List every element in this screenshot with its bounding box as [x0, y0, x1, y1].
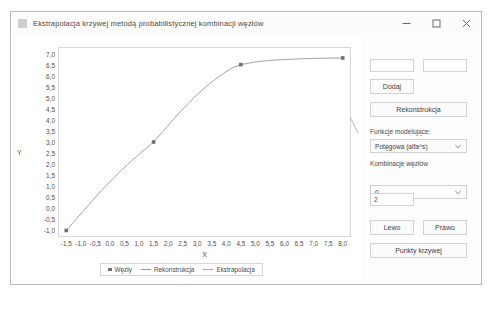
curve-points-button[interactable]: Punkty krzywej [370, 243, 467, 258]
x-axis-tick-label: 0,0 [105, 240, 114, 247]
y-axis-tick-label: 6,0 [46, 72, 55, 79]
left-button[interactable]: Lewo [370, 220, 414, 235]
x-axis-tick-label: 8,0 [338, 240, 347, 247]
legend-item-rekonstrukcja: Rekonstrukcja [141, 266, 195, 273]
x-axis-tick-label: 5,5 [266, 240, 275, 247]
series-wezly-markers [64, 56, 344, 232]
chart-panel: Y 7,06,56,05,55,04,54,03,53,02,52,01,51,… [12, 34, 364, 284]
y-axis-tick-label: 5,0 [46, 94, 55, 101]
y-axis-tick-label: 0,5 [46, 194, 55, 201]
right-button[interactable]: Prawo [423, 220, 467, 235]
y-axis-tick-label: 4,5 [46, 105, 55, 112]
y-axis-tick-label: 3,5 [46, 127, 55, 134]
x-axis-tick-label: 1,5 [149, 240, 158, 247]
count-input[interactable]: 2 [370, 193, 414, 206]
y-axis-tick-label: 3,0 [46, 139, 55, 146]
x-axis-tick-label: 0,5 [120, 240, 129, 247]
x-axis-tick-labels: -1,5-1,0-0,50,00,51,01,52,02,53,03,54,04… [58, 240, 351, 250]
node-marker [239, 63, 243, 67]
x-axis-tick-label: 7,5 [324, 240, 333, 247]
model-functions-value: Potęgowa (alfa^s) [375, 143, 428, 150]
y-axis-title: Y [17, 149, 22, 156]
legend-dashed-line-icon [203, 269, 213, 270]
maximize-button[interactable] [421, 12, 451, 34]
y-axis-tick-label: 5,5 [46, 83, 55, 90]
minimize-icon [401, 18, 412, 29]
reconstruct-button[interactable]: Rekonstrukcja [370, 102, 467, 117]
x-axis-tick-label: 4,0 [222, 240, 231, 247]
chart-legend: Węzły Rekonstrukcja Ekstrapolacja [100, 263, 263, 276]
control-panel: Dodaj Rekonstrukcja Funkcje modelujące: … [362, 34, 480, 284]
y-axis-tick-label: 2,0 [46, 161, 55, 168]
legend-label: Ekstrapolacja [216, 266, 254, 273]
x-axis-tick-label: 6,5 [295, 240, 304, 247]
model-functions-label: Funkcje modelujące: [370, 128, 430, 135]
x-axis-tick-label: 3,0 [193, 240, 202, 247]
window-controls [391, 12, 481, 34]
chevron-down-icon [455, 143, 461, 150]
y-axis-tick-label: 1,0 [46, 183, 55, 190]
y-axis-tick-label: 6,5 [46, 61, 55, 68]
legend-marker-icon [108, 268, 112, 272]
series-ekstrapolacja [241, 58, 343, 65]
x-axis-tick-label: 4,5 [236, 240, 245, 247]
y-axis-tick-labels: 7,06,56,05,55,04,54,03,53,02,52,01,51,00… [26, 47, 55, 237]
app-icon [18, 19, 27, 28]
close-button[interactable] [451, 12, 481, 34]
chevron-down-icon [455, 189, 461, 196]
maximize-icon [431, 18, 442, 29]
add-button[interactable]: Dodaj [370, 79, 414, 94]
close-icon [461, 18, 472, 29]
series-rekonstrukcja [66, 65, 241, 231]
y-axis-tick-label: 0,0 [46, 205, 55, 212]
x-axis-title: X [58, 251, 351, 258]
x-axis-tick-label: -0,5 [90, 240, 101, 247]
legend-item-wezly: Węzły [108, 266, 132, 273]
node-combinations-label: Kombinacje węzłów [370, 160, 428, 167]
x-axis-tick-label: 6,0 [280, 240, 289, 247]
y-axis-tick-label: 7,0 [46, 50, 55, 57]
model-functions-select[interactable]: Potęgowa (alfa^s) [370, 139, 467, 153]
minimize-button[interactable] [391, 12, 421, 34]
x-axis-tick-label: -1,5 [61, 240, 72, 247]
y-axis-tick-label: 1,5 [46, 172, 55, 179]
x-axis-tick-label: 7,0 [309, 240, 318, 247]
y-axis-tick-label: -1,0 [44, 227, 55, 234]
y-value-input[interactable] [423, 59, 467, 72]
y-axis-tick-label: 2,5 [46, 150, 55, 157]
legend-label: Rekonstrukcja [154, 266, 195, 273]
node-marker [341, 56, 345, 60]
legend-label: Węzły [115, 266, 132, 273]
legend-line-icon [141, 269, 151, 270]
x-axis-tick-label: 2,5 [178, 240, 187, 247]
window-title: Ekstrapolacja krzywej metodą probabilist… [33, 19, 264, 28]
node-marker [64, 229, 68, 233]
y-axis-tick-label: 4,0 [46, 116, 55, 123]
application-window: Ekstrapolacja krzywej metodą probabilist… [10, 11, 482, 285]
plot-area [58, 47, 351, 237]
x-value-input[interactable] [370, 59, 414, 72]
plot-svg [59, 48, 350, 236]
x-axis-tick-label: -1,0 [75, 240, 86, 247]
legend-item-ekstrapolacja: Ekstrapolacja [203, 266, 254, 273]
x-axis-tick-label: 5,0 [251, 240, 260, 247]
x-axis-tick-label: 1,0 [135, 240, 144, 247]
x-axis-tick-label: 2,0 [164, 240, 173, 247]
y-axis-tick-label: -0,5 [44, 216, 55, 223]
title-bar: Ekstrapolacja krzywej metodą probabilist… [11, 12, 481, 34]
node-marker [152, 140, 156, 144]
x-axis-tick-label: 3,5 [207, 240, 216, 247]
